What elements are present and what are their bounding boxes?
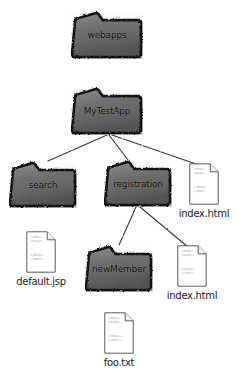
folder-node-mytestapp[interactable]: MyTestApp — [71, 87, 143, 135]
folder-node-search[interactable]: search — [9, 161, 77, 208]
folder-label: MyTestApp — [71, 106, 143, 116]
page-code-line: <body> — [30, 239, 52, 243]
folder-node-newmember[interactable]: newMember — [85, 245, 153, 292]
folder-label: search — [9, 180, 77, 190]
tree-edge-mytestapp-to-search — [48, 135, 107, 161]
file-node-foo_txt[interactable]: <html><body>...</body></html>foo.txt — [104, 312, 134, 354]
page-code-line: <body> — [181, 253, 203, 257]
page-icon-code-lines: <html><body>...</body></html> — [108, 316, 130, 342]
file-label: index.html — [179, 208, 229, 219]
folder-label: registration — [104, 179, 172, 189]
file-node-index_reg[interactable]: <html><body>...</body></html>index.html — [177, 245, 207, 287]
file-label: foo.txt — [104, 357, 134, 368]
page-icon-code-lines: <html><body>...</body></html> — [193, 167, 215, 193]
tree-edge-registration-to-newmember — [119, 207, 136, 245]
page-code-line: ... — [30, 246, 52, 250]
folder-node-webapps[interactable]: webapps — [71, 11, 143, 59]
file-node-index_top[interactable]: <html><body>...</body></html>index.html — [189, 163, 219, 205]
tree-edge-mytestapp-to-registration — [109, 135, 128, 160]
folder-label: newMember — [85, 264, 153, 274]
page-icon-code-lines: <html><body>...</body></html> — [30, 235, 52, 261]
folder-node-registration[interactable]: registration — [104, 160, 172, 207]
page-code-line: </html> — [108, 338, 130, 342]
page-code-line: </html> — [193, 189, 215, 193]
page-icon-code-lines: <html><body>...</body></html> — [181, 249, 203, 275]
file-node-default_jsp[interactable]: <html><body>...</body></html>default.jsp — [26, 231, 56, 273]
page-code-line: <body> — [193, 171, 215, 175]
file-label: index.html — [167, 290, 217, 301]
folder-label: webapps — [71, 30, 143, 40]
file-label: default.jsp — [16, 276, 65, 287]
page-code-line: ... — [181, 260, 203, 264]
page-code-line: ... — [193, 178, 215, 182]
page-code-line: <body> — [108, 320, 130, 324]
page-code-line: </html> — [181, 271, 203, 275]
directory-tree-diagram: webappsMyTestAppsearchregistrationnewMem… — [0, 0, 243, 373]
page-code-line: </html> — [30, 257, 52, 261]
page-code-line: ... — [108, 327, 130, 331]
